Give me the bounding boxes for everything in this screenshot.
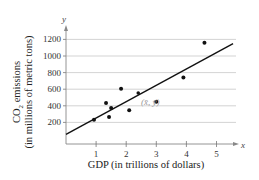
- x-axis-title: GDP (in trillions of dollars): [88, 159, 205, 171]
- scatter-chart: 2004006008001000120012345 x y GDP (in tr…: [0, 0, 259, 180]
- axes: [63, 25, 239, 147]
- y-axis-arrow-icon: [64, 25, 68, 31]
- data-points: [92, 41, 206, 122]
- y-tick-label: 600: [48, 84, 62, 94]
- y-tick-label: 1000: [43, 51, 62, 61]
- data-point: [107, 115, 111, 119]
- data-point: [104, 101, 108, 105]
- x-tick-label: 4: [184, 149, 189, 159]
- x-tick-label: 2: [124, 149, 129, 159]
- data-point: [92, 118, 96, 122]
- x-axis-arrow-icon: [233, 142, 239, 146]
- y-tick-label: 1200: [43, 34, 62, 44]
- y-tick-label: 200: [48, 117, 62, 127]
- data-point: [127, 108, 131, 112]
- data-point: [181, 76, 185, 80]
- x-axis-variable: x: [240, 140, 245, 150]
- y-tick-label: 800: [48, 68, 62, 78]
- x-tick-label: 5: [214, 149, 219, 159]
- y-axis-title-line2: (in millions of metric tons): [23, 35, 35, 149]
- y-tick-label: 400: [48, 101, 62, 111]
- x-tick-label: 3: [154, 149, 159, 159]
- mean-point: [136, 91, 140, 95]
- y-axis-variable: y: [61, 14, 66, 24]
- mean-point-label: (x̄, ȳ): [141, 97, 159, 107]
- data-point: [202, 41, 206, 45]
- x-tick-label: 1: [94, 149, 99, 159]
- tick-labels: 2004006008001000120012345: [43, 34, 219, 159]
- data-point: [109, 106, 113, 110]
- gridlines: [66, 39, 236, 122]
- data-point: [119, 87, 123, 91]
